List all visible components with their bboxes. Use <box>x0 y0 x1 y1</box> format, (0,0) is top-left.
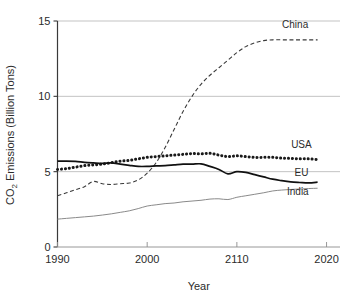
x-tick-label: 2110 <box>225 253 249 265</box>
series-label-usa: USA <box>291 139 312 150</box>
y-tick-label: 15 <box>38 15 50 27</box>
y-tick-label: 0 <box>44 241 50 253</box>
x-tick-label: 1990 <box>45 253 69 265</box>
y-tick-label: 5 <box>44 166 50 178</box>
series-label-china: China <box>282 19 309 30</box>
chart-canvas: 051015 1990200021102020 ChinaUSAEUIndia … <box>0 0 346 298</box>
chart-figure: 051015 1990200021102020 ChinaUSAEUIndia … <box>0 0 346 298</box>
series-label-eu: EU <box>294 167 308 178</box>
series-label-india: India <box>287 186 309 197</box>
x-tick-label: 2020 <box>314 253 338 265</box>
x-axis-title: Year <box>188 280 211 292</box>
x-tick-label: 2000 <box>135 253 159 265</box>
y-tick-label: 10 <box>38 90 50 102</box>
